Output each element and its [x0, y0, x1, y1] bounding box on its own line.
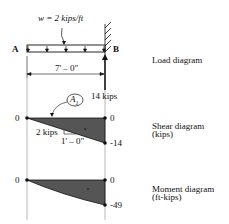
- shear-right-bottom-value: -14: [110, 139, 122, 148]
- moment-right-bottom-value: -49: [110, 201, 122, 210]
- span-label: 7' – 0": [55, 64, 78, 73]
- area-label: A1: [70, 95, 79, 108]
- reaction-label: 14 kips: [91, 92, 117, 101]
- fixed-support-wall: [105, 22, 111, 56]
- load-diagram-caption: Load diagram: [152, 56, 202, 65]
- moment-right-top-value: 0: [110, 176, 115, 185]
- end-a-label: A: [12, 45, 19, 54]
- moment-diagram-caption: Moment diagram (ft-kips): [152, 185, 214, 201]
- load-leader-line: [61, 28, 64, 42]
- shear-diagram-caption: Shear diagram (kips): [152, 122, 204, 138]
- reaction-arrow: [102, 54, 108, 90]
- shear-slope-run: 1' – 0": [61, 137, 84, 146]
- shear-left-value: 0: [15, 114, 20, 123]
- load-intensity-label: w = 2 kips/ft: [38, 14, 83, 23]
- shear-right-top-value: 0: [110, 114, 115, 123]
- moment-diagram: [25, 178, 107, 207]
- moment-left-value: 0: [15, 176, 20, 185]
- end-b-label: B: [113, 45, 119, 54]
- shear-slope-rise: 2 kips: [36, 128, 58, 137]
